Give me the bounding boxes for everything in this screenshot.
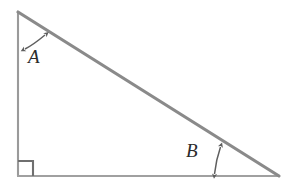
right-angle-marker-icon [18,161,33,176]
angle-label-b: B [186,141,198,160]
triangle-hypotenuse [18,12,279,176]
angle-label-a: A [28,47,40,66]
triangle-svg [0,0,292,188]
triangle-figure: A B [0,0,292,188]
angle-b-arc-icon [215,147,221,174]
